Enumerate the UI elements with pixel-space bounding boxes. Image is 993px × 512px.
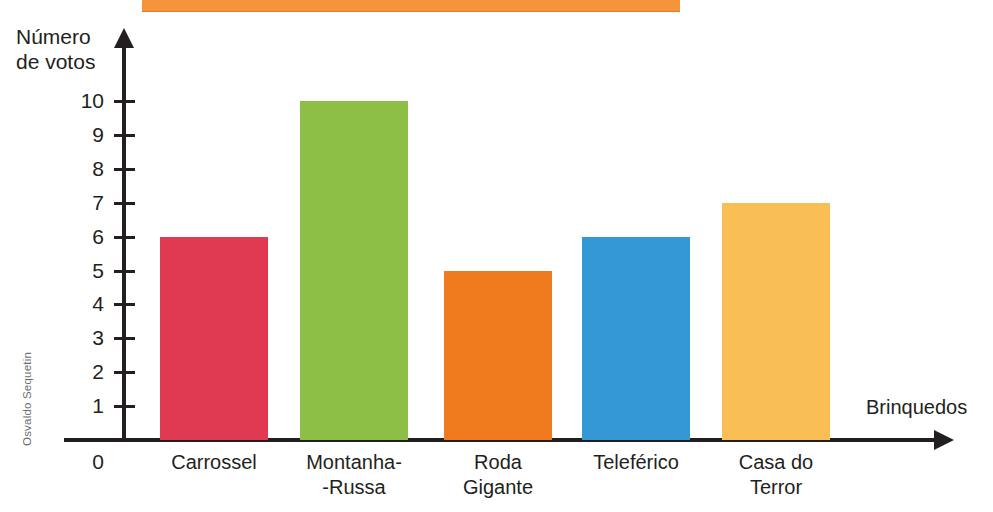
x-axis-category-label-2-line-1: Gigante: [418, 475, 578, 500]
x-axis-category-label-1: Montanha--Russa: [274, 450, 434, 500]
x-axis-category-label-4-line-0: Casa do: [696, 450, 856, 475]
x-axis-category-label-0-line-0: Carrossel: [134, 450, 294, 475]
bars-plot-area: [0, 0, 993, 440]
x-axis-category-label-4: Casa doTerror: [696, 450, 856, 500]
x-axis-category-label-2-line-0: Roda: [418, 450, 578, 475]
bar-3[interactable]: [582, 237, 690, 440]
x-axis-category-label-1-line-1: -Russa: [274, 475, 434, 500]
bar-0[interactable]: [160, 237, 268, 440]
bar-2[interactable]: [444, 271, 552, 441]
x-axis-category-label-1-line-0: Montanha-: [274, 450, 434, 475]
y-axis-tick-label-0: 0: [56, 450, 104, 474]
x-axis-category-label-3-line-0: Teleférico: [556, 450, 716, 475]
x-axis-category-label-4-line-1: Terror: [696, 475, 856, 500]
bar-1[interactable]: [300, 101, 408, 440]
bar-4[interactable]: [722, 203, 830, 440]
x-axis-category-label-3: Teleférico: [556, 450, 716, 475]
x-axis-category-label-0: Carrossel: [134, 450, 294, 475]
x-axis-category-label-2: RodaGigante: [418, 450, 578, 500]
chart-page: Osvaldo Sequetin Número de votos Brinque…: [0, 0, 993, 512]
